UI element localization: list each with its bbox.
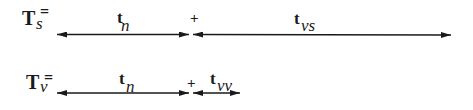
tvs-subscript: vs	[301, 17, 315, 34]
tvv-symbol: t	[210, 70, 216, 87]
tn-subscript-row2: n	[126, 78, 135, 95]
arrow-layer	[0, 0, 473, 110]
tvs-span-arrow	[193, 35, 451, 36]
tn-subscript-row1: n	[121, 17, 130, 34]
plus-operator-row2: +	[187, 76, 196, 91]
plus-operator-row1: +	[190, 11, 199, 26]
tvs-symbol: t	[294, 10, 300, 27]
tv-equals: =	[44, 70, 53, 86]
tv-symbol: T	[26, 72, 39, 92]
tvv-subscript: vv	[217, 77, 232, 94]
ts-symbol: T	[22, 8, 35, 28]
ts-equals: =	[40, 4, 49, 20]
tn-symbol-row2: t	[119, 70, 125, 87]
